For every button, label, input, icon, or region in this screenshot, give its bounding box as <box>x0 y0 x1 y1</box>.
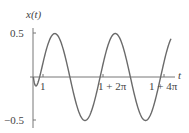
x-axis-label: t <box>178 69 182 81</box>
y-axis-label: x(t) <box>25 8 42 21</box>
x-tick-label-3: 1 + 4π <box>149 80 178 92</box>
chart: x(t) t 0.5 −0.5 1 1 + 2π 1 + 4π <box>0 0 189 133</box>
y-tick-label-neg: −0.5 <box>4 114 24 126</box>
y-tick-label-pos: 0.5 <box>10 27 24 39</box>
x-tick-label-2: 1 + 2π <box>98 80 127 92</box>
x-tick-label-1: 1 <box>40 80 46 92</box>
